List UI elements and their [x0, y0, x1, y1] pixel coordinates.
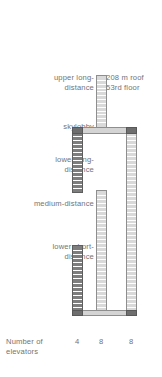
shaft-rung [73, 156, 82, 157]
shaft-rung [97, 111, 106, 112]
shaft-rung [127, 168, 136, 169]
shaft-rung [73, 291, 82, 292]
elevator-count-column-3: 8 [124, 337, 138, 347]
shaft-rung [127, 140, 136, 141]
label-upper-long-distance: upper long- distance [24, 73, 94, 92]
shaft-rung [127, 275, 136, 276]
shaft-rung [97, 99, 106, 100]
shaft-rung [73, 266, 82, 267]
shaft-rung [97, 107, 106, 108]
shaft-upper-long-distance [96, 75, 107, 128]
elevator-count-column-2: 8 [94, 337, 108, 347]
shaft-rung [73, 258, 82, 259]
shaft-rung [97, 80, 106, 81]
shaft-rungs [73, 246, 82, 315]
shaft-rung [127, 184, 136, 185]
shaft-rung [127, 295, 136, 296]
shaft-rung [97, 91, 106, 92]
shaft-rung [97, 227, 106, 228]
label-lower-long-distance: lower long- distance [24, 155, 94, 174]
shaft-rung [73, 136, 82, 137]
shaft-rung [73, 287, 82, 288]
shaft-rung [97, 84, 106, 85]
label-lower-short-distance: lower short- distance [24, 242, 94, 261]
shaft-rungs [73, 128, 82, 192]
shaft-rung [127, 152, 136, 153]
shaft-rung [127, 279, 136, 280]
shaft-rung [97, 271, 106, 272]
shaft-rung [127, 235, 136, 236]
shaft-rung [97, 307, 106, 308]
shaft-rung [97, 259, 106, 260]
shaft-rungs [97, 191, 106, 315]
shaft-rung [127, 307, 136, 308]
shaft-rung [97, 195, 106, 196]
shaft-rung [127, 239, 136, 240]
shaft-rung [73, 160, 82, 161]
shaft-rung [97, 231, 106, 232]
shaft-rung [97, 207, 106, 208]
shaft-rung [127, 160, 136, 161]
shaft-rung [97, 287, 106, 288]
ground-cap-left [72, 310, 83, 316]
shaft-rung [97, 235, 106, 236]
shaft-rung [127, 259, 136, 260]
shaft-rung [73, 152, 82, 153]
shaft-rung [127, 287, 136, 288]
shaft-rung [127, 255, 136, 256]
shaft-rung [73, 250, 82, 251]
shaft-rung [127, 164, 136, 165]
shaft-rung [97, 88, 106, 89]
shaft-rung [97, 255, 106, 256]
shaft-rung [127, 223, 136, 224]
shaft-rung [73, 307, 82, 308]
shaft-rung [97, 203, 106, 204]
label-roof-height: 208 m roof 53rd floor [106, 73, 162, 92]
shaft-rung [73, 168, 82, 169]
shaft-rung [127, 227, 136, 228]
shaft-rung [127, 212, 136, 213]
shaft-rung [73, 254, 82, 255]
shaft-lower-long-distance [72, 127, 83, 193]
shaft-rung [73, 295, 82, 296]
shaft-rung [127, 303, 136, 304]
shaft-rung [97, 114, 106, 115]
skylobby-cap-right [126, 127, 137, 134]
shaft-rung [97, 118, 106, 119]
shaft-rung [97, 283, 106, 284]
shaft-rung [127, 176, 136, 177]
shaft-right-full-height [126, 127, 137, 316]
shaft-rung [127, 196, 136, 197]
shaft-rung [97, 295, 106, 296]
shaft-rung [127, 283, 136, 284]
ground-cap-right [126, 310, 137, 316]
shaft-rungs [97, 76, 106, 127]
shaft-rung [73, 144, 82, 145]
shaft-rung [73, 184, 82, 185]
shaft-lower-short-distance [72, 245, 83, 316]
shaft-rung [97, 267, 106, 268]
shaft-rung [97, 263, 106, 264]
skylobby-cap-left [72, 127, 83, 134]
shaft-rung [127, 291, 136, 292]
shaft-rung [97, 303, 106, 304]
shaft-rung [73, 299, 82, 300]
shaft-rung [97, 199, 106, 200]
shaft-rung [97, 239, 106, 240]
shaft-rung [127, 251, 136, 252]
shaft-rung [127, 247, 136, 248]
shaft-rung [73, 278, 82, 279]
shaft-rung [73, 303, 82, 304]
label-number-of-elevators: Number of elevators [6, 337, 66, 356]
shaft-rung [97, 299, 106, 300]
shaft-rung [127, 216, 136, 217]
shaft-rung [127, 144, 136, 145]
shaft-rung [97, 291, 106, 292]
shaft-rung [127, 299, 136, 300]
shaft-rung [127, 208, 136, 209]
shaft-rung [73, 140, 82, 141]
shaft-rung [73, 164, 82, 165]
shaft-rung [97, 215, 106, 216]
shaft-medium-distance [96, 190, 107, 316]
shaft-rung [73, 283, 82, 284]
